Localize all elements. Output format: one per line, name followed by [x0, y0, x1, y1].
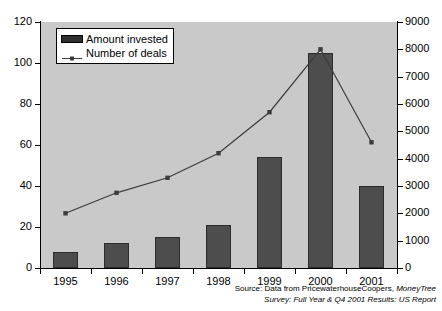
legend-label-number-of-deals: Number of deals — [86, 47, 167, 59]
right-tick-5000 — [398, 131, 403, 132]
left-tick-label-20: 20 — [0, 220, 32, 232]
right-tick-2000 — [398, 213, 403, 214]
right-tick-6000 — [398, 104, 403, 105]
right-tick-label-6000: 6000 — [405, 97, 442, 109]
x-tick-6 — [346, 269, 347, 274]
left-tick-label-120: 120 — [0, 15, 32, 27]
legend-item-amount-invested: Amount invested — [61, 32, 168, 46]
x-tick-1 — [91, 269, 92, 274]
right-tick-label-9000: 9000 — [405, 15, 442, 27]
right-tick-1000 — [398, 241, 403, 242]
right-tick-label-0: 0 — [405, 261, 442, 273]
right-tick-9000 — [398, 22, 403, 23]
right-tick-7000 — [398, 77, 403, 78]
right-tick-4000 — [398, 159, 403, 160]
left-tick-label-60: 60 — [0, 138, 32, 150]
x-tick-5 — [295, 269, 296, 274]
left-tick-label-100: 100 — [0, 56, 32, 68]
line-marker-1997 — [165, 176, 169, 180]
right-tick-label-2000: 2000 — [405, 206, 442, 218]
right-tick-label-7000: 7000 — [405, 70, 442, 82]
right-axis-line — [397, 21, 398, 269]
caption-source-text: Source: Data from PricewaterhouseCoopers… — [235, 284, 396, 293]
line-marker-1995 — [63, 211, 67, 215]
legend-label-amount-invested: Amount invested — [86, 33, 168, 45]
right-tick-label-1000: 1000 — [405, 234, 442, 246]
chart-container: 020406080100120 010002000300040005000600… — [0, 0, 442, 311]
caption-line-2: Survey: Full Year & Q4 2001 Results: US … — [136, 294, 436, 305]
right-tick-3000 — [398, 186, 403, 187]
caption-publication-name: MoneyTree — [396, 284, 436, 293]
x-tick-7 — [397, 269, 398, 274]
line-marker-2000 — [318, 47, 322, 51]
caption-line-1: Source: Data from PricewaterhouseCoopers… — [136, 283, 436, 294]
line-marker-1999 — [267, 110, 271, 114]
x-tick-2 — [142, 269, 143, 274]
line-marker-2001 — [369, 140, 373, 144]
right-tick-label-4000: 4000 — [405, 152, 442, 164]
bottom-axis-line — [40, 268, 398, 269]
bar-swatch-icon — [61, 35, 83, 43]
x-tick-3 — [193, 269, 194, 274]
x-tick-4 — [244, 269, 245, 274]
left-tick-label-0: 0 — [0, 261, 32, 273]
right-tick-8000 — [398, 49, 403, 50]
right-tick-label-5000: 5000 — [405, 124, 442, 136]
chart-legend: Amount invested Number of deals — [56, 28, 174, 64]
left-tick-label-40: 40 — [0, 179, 32, 191]
line-marker-1998 — [216, 151, 220, 155]
right-tick-label-8000: 8000 — [405, 42, 442, 54]
line-marker-1996 — [114, 191, 118, 195]
chart-source-caption: Source: Data from PricewaterhouseCoopers… — [136, 283, 436, 305]
right-tick-0 — [398, 268, 403, 269]
line-marker-icon — [61, 49, 83, 58]
right-tick-label-3000: 3000 — [405, 179, 442, 191]
legend-item-number-of-deals: Number of deals — [61, 46, 168, 60]
line-path-number-of-deals — [66, 49, 372, 213]
left-tick-label-80: 80 — [0, 97, 32, 109]
x-tick-0 — [40, 269, 41, 274]
